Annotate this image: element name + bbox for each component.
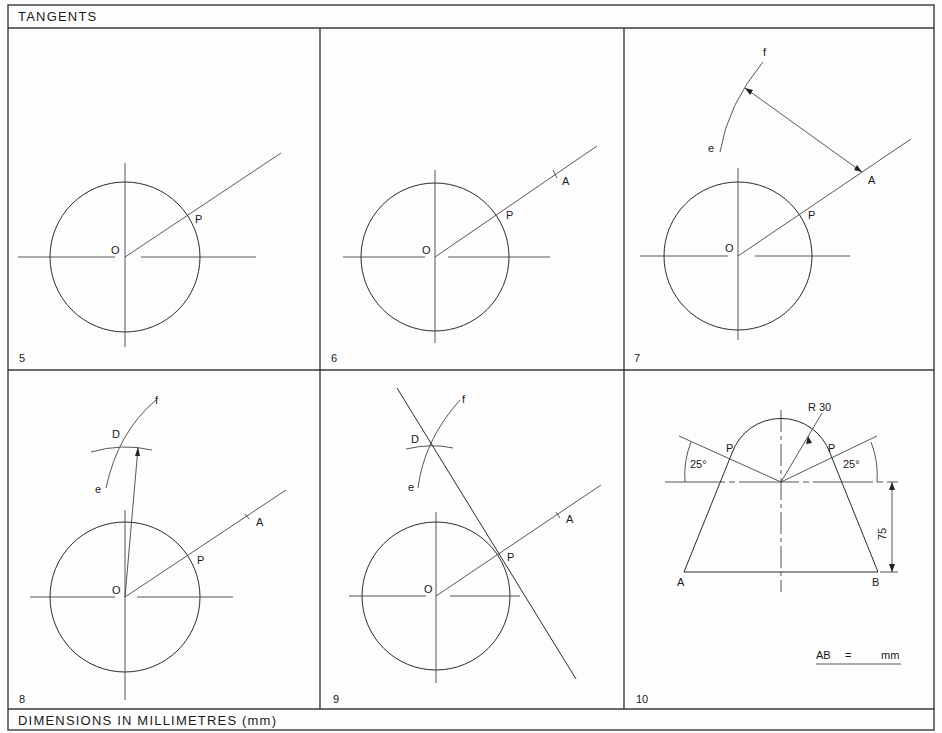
panel-number: 5 — [19, 352, 25, 364]
panel-10: R 30 25° 25° P P 75 A B AB = mm 10 — [636, 401, 901, 705]
label-e: e — [408, 481, 414, 493]
label-f: f — [763, 46, 767, 58]
height-label: 75 — [876, 528, 888, 540]
label-p-right: P — [828, 442, 835, 454]
panel-number: 6 — [331, 352, 337, 364]
label-a: A — [562, 175, 570, 187]
panel-number: 9 — [333, 693, 339, 705]
label-a: A — [256, 516, 264, 528]
label-p: P — [808, 209, 815, 221]
label-o: O — [111, 244, 120, 256]
label-a: A — [868, 174, 876, 186]
label-p-left: P — [726, 442, 733, 454]
sheet-frame — [8, 5, 934, 730]
label-f: f — [155, 394, 159, 406]
answer-label: AB — [816, 649, 831, 661]
panel-9: D e f O P A 9 — [333, 388, 601, 705]
label-d: D — [411, 433, 419, 445]
label-f: f — [462, 393, 466, 405]
panel-7: e f O P A 7 — [634, 46, 911, 364]
radius-label: R 30 — [808, 401, 831, 413]
label-o: O — [112, 584, 121, 596]
tangents-worksheet: TANGENTS DIMENSIONS IN MILLIMETRES (mm) … — [0, 0, 942, 733]
panel-8: D e f O P A 8 — [19, 394, 286, 705]
panel-number: 7 — [634, 352, 640, 364]
label-o: O — [424, 583, 433, 595]
answer-unit: mm — [881, 649, 899, 661]
angle-right-label: 25° — [843, 458, 860, 470]
label-d: D — [112, 428, 120, 440]
footer-note: DIMENSIONS IN MILLIMETRES (mm) — [18, 713, 277, 728]
label-p: P — [507, 551, 514, 563]
label-a: A — [677, 576, 685, 588]
label-p: P — [195, 213, 202, 225]
angle-left-label: 25° — [690, 458, 707, 470]
page-title: TANGENTS — [18, 9, 97, 24]
label-e: e — [708, 142, 714, 154]
label-p: P — [197, 554, 204, 566]
panel-6: O P A 6 — [331, 146, 597, 364]
answer-equals: = — [845, 649, 851, 661]
label-o: O — [725, 242, 734, 254]
label-a: A — [566, 513, 574, 525]
label-e: e — [95, 483, 101, 495]
label-b: B — [872, 576, 879, 588]
panel-number: 10 — [636, 693, 648, 705]
label-o: O — [422, 244, 431, 256]
panel-number: 8 — [19, 693, 25, 705]
label-p: P — [506, 209, 513, 221]
panel-5: O P 5 — [18, 153, 281, 364]
